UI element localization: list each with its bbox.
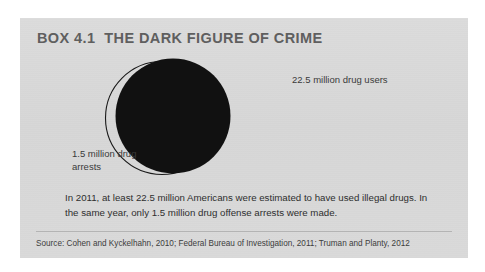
page-title: BOX 4.1 THE DARK FIGURE OF CRIME: [37, 30, 323, 46]
label-drug-users: 22.5 million drug users: [292, 74, 388, 87]
box-body-text: In 2011, at least 22.5 million Americans…: [65, 190, 437, 220]
page-root: BOX 4.1 THE DARK FIGURE OF CRIME 22.5 mi…: [0, 0, 485, 272]
figure-container: 22.5 million drug users 1.5 million drug…: [20, 18, 468, 258]
source-divider: [36, 231, 452, 232]
label-drug-arrests: 1.5 million drug arrests: [72, 148, 136, 173]
source-citation: Source: Cohen and Kyckelhahn, 2010; Fede…: [36, 238, 456, 249]
overlapping-circles-graphic: [20, 18, 468, 258]
text-box-panel: BOX 4.1 THE DARK FIGURE OF CRIME 22.5 mi…: [20, 18, 468, 258]
